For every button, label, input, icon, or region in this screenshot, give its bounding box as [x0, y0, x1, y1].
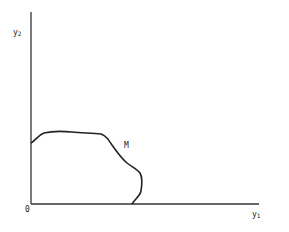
diagram-canvas: y2 0 y1 M [0, 0, 289, 232]
origin-label: 0 [25, 205, 30, 214]
y2-axis-label: y2 [13, 28, 22, 37]
y1-axis-label: y1 [252, 210, 261, 219]
curve-m-label: M [124, 141, 129, 150]
